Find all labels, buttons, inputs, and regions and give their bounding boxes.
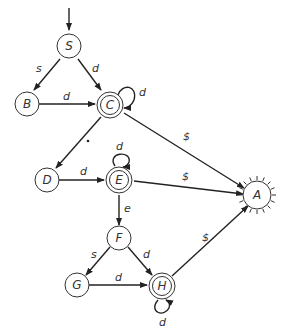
edge-C-D [56,117,101,168]
state-E: E [106,167,132,193]
state-G: G [65,273,89,297]
svg-text:B: B [23,97,31,111]
svg-text:D: D [42,173,51,187]
edge-label-G-H: d [115,271,123,284]
edge-label-D-E: d [80,165,88,178]
svg-text:A: A [252,188,261,202]
fsa-diagram: s d d d $ d d $ e s d d d $ S B C D [0,0,288,332]
svg-text:H: H [157,279,166,293]
svg-text:G: G [72,278,81,292]
state-A-sunburst-icon: A [238,176,276,214]
state-C: C [97,92,123,118]
state-F: F [107,226,131,250]
edge-label-C-A: $ [183,130,190,143]
edge-F-G [86,247,110,275]
svg-text:S: S [65,39,73,53]
edge-label-F-H: d [143,248,151,261]
svg-text:E: E [115,173,123,187]
edge-E-loop [113,154,129,167]
state-H: H [149,273,175,299]
edge-label-S-C: d [92,62,100,75]
state-D: D [35,168,59,192]
svg-text:C: C [106,98,115,112]
edge-label-B-C: d [63,90,71,103]
edge-label-H-A: $ [202,231,209,244]
edge-label-C-D-dot [87,140,90,143]
edge-label-F-G: s [91,248,97,261]
edge-H-A [172,206,248,276]
edge-label-E-F: e [124,202,131,215]
svg-text:F: F [116,231,124,245]
edge-H-loop [155,300,170,313]
edge-label-E-loop: d [116,140,124,153]
edge-label-H-loop: d [159,316,167,329]
state-S: S [57,34,81,58]
edge-label-E-A: $ [182,170,189,183]
state-B: B [15,92,39,116]
edge-label-C-loop: d [139,86,147,99]
edge-label-S-B: s [36,62,42,75]
